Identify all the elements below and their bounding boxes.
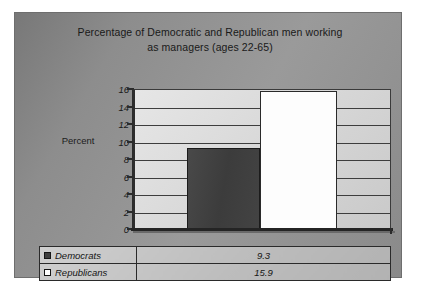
dark-square-icon: [44, 252, 51, 259]
legend-data-table: Democrats 9.3 Republicans 15.9: [39, 246, 391, 281]
bar-republicans: [260, 91, 337, 229]
legend-value-republicans: 15.9: [137, 264, 391, 281]
plot-area: 16 14 12 10 8 6 4 2 0: [119, 77, 391, 230]
x-axis-baseline-shadow: [133, 231, 395, 233]
table-row: Republicans 15.9: [40, 264, 391, 281]
y-tick-label-4: 4: [105, 189, 129, 200]
y-tick-label-8: 8: [105, 154, 129, 165]
y-tick-label-16: 16: [105, 84, 129, 95]
chart-title-line-2: as managers (ages 22-65): [45, 40, 375, 55]
chart-title-line-1: Percentage of Democratic and Republican …: [45, 25, 375, 40]
plot-inner: [133, 89, 391, 229]
chart-title: Percentage of Democratic and Republican …: [45, 25, 375, 55]
empty-square-icon: [44, 269, 51, 276]
legend-cell-republicans: Republicans: [40, 264, 137, 281]
bar-democrats: [187, 148, 260, 229]
table-row: Democrats 9.3: [40, 247, 391, 264]
x-axis-end-tick: [390, 228, 392, 234]
legend-cell-democrats: Democrats: [40, 247, 137, 264]
y-axis-label: Percent: [41, 135, 115, 146]
y-tick-label-2: 2: [105, 206, 129, 217]
legend-label-republicans: Republicans: [55, 267, 107, 278]
y-tick-label-12: 12: [105, 119, 129, 130]
legend-label-democrats: Democrats: [55, 250, 101, 261]
y-tick-label-10: 10: [105, 136, 129, 147]
x-axis-baseline: [131, 228, 393, 231]
y-tick-label-14: 14: [105, 101, 129, 112]
legend-value-democrats: 9.3: [137, 247, 391, 264]
chart-panel: Percentage of Democratic and Republican …: [14, 12, 402, 278]
chart-figure: Percentage of Democratic and Republican …: [0, 0, 424, 294]
y-tick-label-0: 0: [105, 224, 129, 235]
y-tick-label-6: 6: [105, 171, 129, 182]
